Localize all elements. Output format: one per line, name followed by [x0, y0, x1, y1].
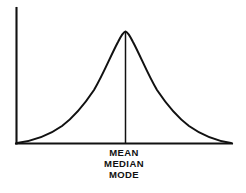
mean-label: MEAN	[2, 147, 246, 158]
center-labels-group: MEAN MEDIAN MODE	[0, 147, 246, 180]
median-label: MEDIAN	[2, 158, 246, 169]
normal-distribution-curve	[17, 32, 231, 144]
distribution-figure: MEAN MEDIAN MODE	[0, 0, 246, 193]
mode-label: MODE	[2, 169, 246, 180]
